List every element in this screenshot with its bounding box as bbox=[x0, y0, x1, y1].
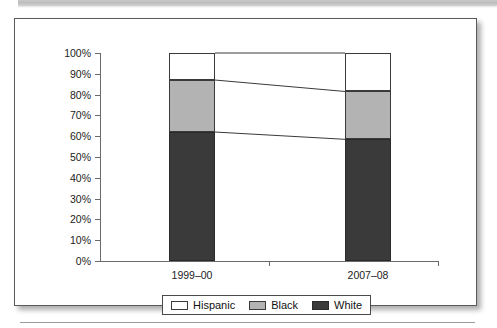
y-tick-label-20: 20% bbox=[45, 214, 91, 224]
x-axis-tick-0 bbox=[269, 261, 270, 266]
bar-segment-hispanic-1[interactable] bbox=[345, 53, 391, 91]
y-tick-80 bbox=[95, 95, 100, 96]
legend-item-white[interactable]: White bbox=[312, 300, 362, 311]
y-tick-label-50: 50% bbox=[45, 152, 91, 162]
legend-swatch-white bbox=[312, 301, 329, 310]
chart-legend: Hispanic Black White bbox=[162, 295, 371, 315]
y-tick-100 bbox=[95, 53, 100, 54]
x-axis-tick-1 bbox=[438, 261, 439, 266]
y-tick-label-80: 80% bbox=[45, 90, 91, 100]
bar-segment-white-1[interactable] bbox=[345, 139, 391, 261]
page-bottom-rule bbox=[20, 322, 475, 323]
plot-area: 100%90%80%70%60%50%40%30%20%10%0% 1999–0… bbox=[15, 19, 476, 305]
bar-segment-black-1[interactable] bbox=[345, 91, 391, 139]
y-axis-line bbox=[100, 53, 101, 262]
y-tick-label-70: 70% bbox=[45, 110, 91, 120]
legend-item-black[interactable]: Black bbox=[249, 300, 298, 311]
bar-segment-white-0[interactable] bbox=[169, 132, 215, 261]
legend-label-white: White bbox=[334, 300, 362, 311]
y-tick-label-40: 40% bbox=[45, 173, 91, 183]
bar-200708[interactable] bbox=[345, 53, 391, 261]
y-tick-label-90: 90% bbox=[45, 69, 91, 79]
x-tick-label-0: 1999–00 bbox=[142, 269, 242, 281]
legend-swatch-black bbox=[249, 301, 266, 310]
y-tick-label-100: 100% bbox=[45, 48, 91, 58]
legend-swatch-hispanic bbox=[171, 301, 188, 310]
bar-199900[interactable] bbox=[169, 53, 215, 261]
y-tick-10 bbox=[95, 240, 100, 241]
y-tick-90 bbox=[95, 74, 100, 75]
scan-top-band bbox=[18, 0, 497, 6]
y-tick-0 bbox=[95, 261, 100, 262]
y-tick-30 bbox=[95, 199, 100, 200]
legend-label-hispanic: Hispanic bbox=[193, 300, 235, 311]
y-tick-70 bbox=[95, 115, 100, 116]
y-tick-20 bbox=[95, 219, 100, 220]
legend-label-black: Black bbox=[271, 300, 298, 311]
connector-line-0 bbox=[215, 80, 345, 91]
bar-segment-hispanic-0[interactable] bbox=[169, 53, 215, 80]
y-tick-60 bbox=[95, 136, 100, 137]
chart-panel: 100%90%80%70%60%50%40%30%20%10%0% 1999–0… bbox=[14, 18, 477, 306]
bar-segment-black-0[interactable] bbox=[169, 80, 215, 132]
y-tick-label-30: 30% bbox=[45, 194, 91, 204]
y-tick-label-60: 60% bbox=[45, 131, 91, 141]
y-tick-50 bbox=[95, 157, 100, 158]
connector-line-1 bbox=[215, 132, 345, 139]
y-tick-label-0: 0% bbox=[45, 256, 91, 266]
legend-item-hispanic[interactable]: Hispanic bbox=[171, 300, 235, 311]
x-tick-label-1: 2007–08 bbox=[318, 269, 418, 281]
y-tick-40 bbox=[95, 178, 100, 179]
page-root: 100%90%80%70%60%50%40%30%20%10%0% 1999–0… bbox=[0, 0, 497, 328]
y-tick-label-10: 10% bbox=[45, 235, 91, 245]
